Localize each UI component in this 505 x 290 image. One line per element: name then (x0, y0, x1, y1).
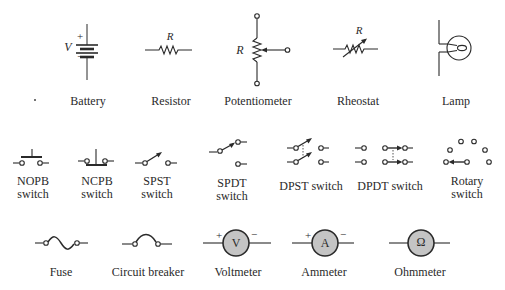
ohmmeter-glyph: Ω (417, 236, 426, 249)
battery-label: Battery (70, 95, 105, 108)
voltmeter-label: Voltmeter (214, 266, 261, 279)
voltmeter-glyph: V (232, 237, 241, 250)
ohmmeter-icon (389, 229, 464, 257)
spst-label-line2: switch (141, 188, 172, 201)
battery-minus: − (77, 50, 83, 63)
spst-switch-icon (135, 150, 180, 168)
dpdt-switch-icon (355, 140, 425, 168)
ammeter-plus: + (305, 229, 311, 242)
dpst-label: DPST switch (279, 180, 342, 193)
spdt-switch-icon (209, 138, 254, 170)
ohmmeter-label: Ohmmeter (394, 266, 445, 279)
battery-voltage-label: V (64, 41, 71, 54)
battery-plus: + (77, 30, 83, 43)
ncpb-switch-icon (78, 148, 118, 168)
ammeter-glyph: A (321, 237, 330, 250)
potentiometer-icon (245, 12, 295, 88)
stray-dot (34, 99, 36, 101)
resistor-value: R (167, 30, 174, 43)
resistor-label: Resistor (151, 95, 190, 108)
dpdt-label: DPDT switch (357, 180, 422, 193)
fuse-label: Fuse (50, 266, 73, 279)
rheostat-label: Rheostat (337, 95, 379, 108)
ammeter-label: Ammeter (301, 266, 346, 279)
rotary-switch-icon (442, 138, 502, 168)
circuit-breaker-icon (122, 232, 177, 252)
resistor-icon (145, 40, 195, 60)
rotary-label-line2: switch (451, 188, 482, 201)
voltmeter-plus: + (216, 229, 222, 242)
nopb-switch-icon (13, 148, 53, 166)
dpst-switch-icon (287, 138, 337, 168)
rheostat-value: R (356, 24, 363, 37)
potentiometer-value: R (236, 44, 243, 57)
potentiometer-label: Potentiometer (224, 95, 291, 108)
fuse-icon (35, 233, 90, 253)
spdt-label-line2: switch (216, 190, 247, 203)
rheostat-icon (333, 35, 383, 65)
nopb-label-line2: switch (17, 188, 48, 201)
lamp-icon (435, 18, 485, 80)
circuit-breaker-label: Circuit breaker (112, 266, 184, 279)
lamp-label: Lamp (442, 95, 470, 108)
voltmeter-minus: − (251, 228, 257, 241)
ammeter-minus: − (340, 228, 346, 241)
ncpb-label-line2: switch (81, 188, 112, 201)
